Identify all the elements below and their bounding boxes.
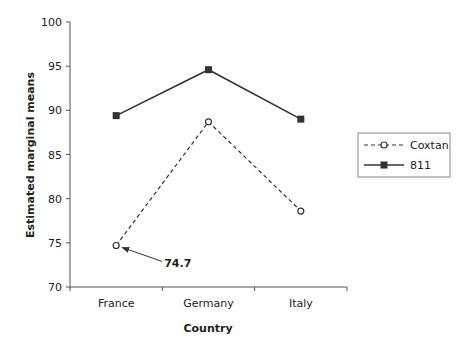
legend: Coxtan811 — [358, 133, 450, 177]
circle-marker — [298, 208, 304, 214]
square-marker — [381, 162, 388, 169]
x-tick-label: Germany — [183, 297, 234, 310]
x-axis-title: Country — [183, 322, 232, 335]
annotations: 74.7 — [122, 247, 191, 270]
y-tick-label: 70 — [48, 281, 62, 294]
legend-label: Coxtan — [410, 139, 449, 152]
line-chart: 707580859095100 FranceGermanyItaly Estim… — [0, 0, 472, 354]
x-tick-label: Italy — [289, 297, 313, 310]
y-axis-title: Estimated marginal means — [24, 72, 37, 238]
y-tick-label: 75 — [48, 237, 62, 250]
series-group — [113, 66, 305, 248]
square-marker — [113, 112, 120, 119]
square-marker — [297, 116, 304, 123]
series-coxtan — [113, 119, 304, 249]
y-axis: 707580859095100 — [41, 16, 70, 294]
legend-label: 811 — [410, 159, 431, 172]
y-tick-label: 100 — [41, 16, 62, 29]
series-811 — [113, 66, 305, 122]
circle-marker — [113, 242, 119, 248]
y-tick-label: 90 — [48, 104, 62, 117]
y-tick-label: 80 — [48, 193, 62, 206]
x-tick-label: France — [98, 297, 135, 310]
y-tick-label: 95 — [48, 60, 62, 73]
y-tick-label: 85 — [48, 149, 62, 162]
circle-marker — [206, 119, 212, 125]
annotation-arrow — [122, 247, 162, 261]
circle-marker — [381, 142, 387, 148]
annotation-label: 74.7 — [164, 257, 191, 270]
x-axis: FranceGermanyItaly — [70, 287, 347, 310]
square-marker — [205, 66, 212, 73]
